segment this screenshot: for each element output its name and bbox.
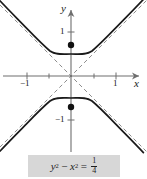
equation-fraction-denominator: 4 <box>91 166 97 175</box>
focus-point-lower <box>68 104 74 110</box>
hyperbola-figure: y x −1 1 1 −1 y2 − x2 = 1 4 <box>0 0 147 179</box>
equation-equals-sign: = <box>81 160 87 172</box>
equation-text: y2 − x2 = 1 4 <box>51 157 98 175</box>
equation-y-variable: y <box>51 160 56 172</box>
x-tick-label-pos-one: 1 <box>113 79 118 88</box>
x-tick-label-neg-one: −1 <box>20 79 30 88</box>
y-tick-label-neg-one: −1 <box>55 115 65 124</box>
y-axis-label: y <box>61 3 66 14</box>
equation-minus-sign: − <box>61 160 67 172</box>
x-axis-label: x <box>134 78 139 89</box>
focus-point-upper <box>68 42 74 48</box>
equation-fraction: 1 4 <box>91 157 97 175</box>
equation-fraction-numerator: 1 <box>91 157 97 165</box>
hyperbola-plot <box>0 0 147 179</box>
equation-caption-box: y2 − x2 = 1 4 <box>28 155 120 177</box>
y-tick-label-pos-one: 1 <box>60 27 65 36</box>
